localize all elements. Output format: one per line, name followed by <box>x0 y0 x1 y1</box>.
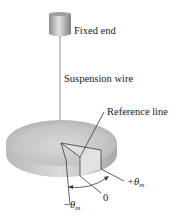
minus-theta-symbol: −θ <box>63 199 75 210</box>
subscript-m: m <box>139 181 144 189</box>
fixed-end-clamp <box>49 12 71 37</box>
subscript-m: m <box>75 204 80 212</box>
plus-theta-m-label: +θm <box>127 177 144 189</box>
minus-theta-m-label: −θm <box>63 200 80 212</box>
zero-label: 0 <box>103 193 108 204</box>
suspension-wire-label: Suspension wire <box>64 74 133 85</box>
plus-theta-symbol: +θ <box>127 176 139 187</box>
disk <box>6 120 117 177</box>
reference-line-label: Reference line <box>107 107 168 118</box>
fixed-end-label: Fixed end <box>74 26 116 37</box>
